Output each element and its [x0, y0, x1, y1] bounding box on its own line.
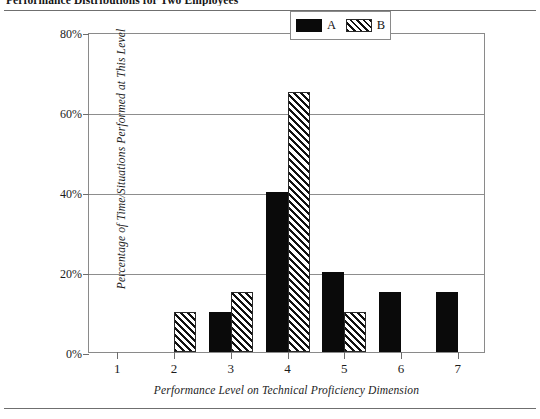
y-tick-mark — [83, 194, 89, 195]
legend-label-b: B — [377, 18, 385, 33]
y-tick-mark — [83, 354, 89, 355]
bar-a-level-3 — [209, 312, 231, 352]
plot-area: Percentage of Time/Situations Performed … — [88, 33, 485, 353]
y-tick-mark — [83, 114, 89, 115]
y-tick-label: 20% — [38, 267, 82, 282]
x-tick-label: 4 — [273, 361, 303, 377]
x-tick-mark — [231, 352, 232, 359]
bottom-rule — [4, 408, 536, 409]
bar-a-level-4 — [266, 192, 288, 352]
x-tick-label: 7 — [443, 361, 473, 377]
y-tick-mark — [83, 34, 89, 35]
y-tick-label: 60% — [38, 107, 82, 122]
legend-entry-b: B — [346, 18, 385, 33]
legend-entry-a: A — [296, 18, 336, 33]
bar-a-level-5 — [322, 272, 344, 352]
y-axis-label: Percentage of Time/Situations Performed … — [115, 19, 127, 299]
chart-legend: A B — [290, 11, 391, 40]
x-tick-label: 3 — [216, 361, 246, 377]
x-tick-mark — [458, 352, 459, 359]
bar-b-level-2 — [174, 312, 196, 352]
x-tick-mark — [174, 352, 175, 359]
bar-a-level-7 — [436, 292, 458, 352]
x-tick-label: 1 — [102, 361, 132, 377]
bar-b-level-4 — [288, 92, 310, 352]
y-tick-label: 40% — [38, 187, 82, 202]
y-tick-mark — [83, 274, 89, 275]
x-axis-label: Performance Level on Technical Proficien… — [89, 384, 484, 396]
legend-swatch-solid-icon — [296, 19, 322, 32]
bar-b-level-3 — [231, 292, 253, 352]
chart-figure: Percentage of Time/Situations Performed … — [0, 0, 540, 419]
x-tick-mark — [401, 352, 402, 359]
x-tick-label: 6 — [386, 361, 416, 377]
x-tick-mark — [288, 352, 289, 359]
y-tick-label: 80% — [38, 27, 82, 42]
bar-b-level-5 — [344, 312, 366, 352]
x-tick-label: 5 — [329, 361, 359, 377]
gridline — [89, 114, 484, 115]
y-tick-label: 0% — [38, 347, 82, 362]
x-tick-mark — [344, 352, 345, 359]
x-tick-label: 2 — [159, 361, 189, 377]
legend-swatch-hatch-icon — [346, 19, 372, 32]
bar-a-level-6 — [379, 292, 401, 352]
legend-label-a: A — [327, 18, 336, 33]
x-tick-mark — [117, 352, 118, 359]
